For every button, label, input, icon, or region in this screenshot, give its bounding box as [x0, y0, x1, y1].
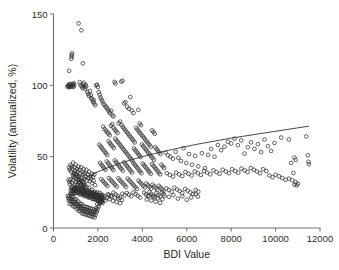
data-point — [239, 139, 243, 143]
data-point — [193, 154, 197, 158]
data-point — [149, 199, 153, 203]
data-point — [249, 141, 253, 145]
data-point — [219, 148, 223, 152]
data-point — [189, 196, 193, 200]
data-point — [243, 152, 247, 156]
data-point — [273, 141, 277, 145]
axis-labels-group: 020004000600080001000012000050100150BDI … — [6, 9, 333, 260]
data-point — [136, 108, 140, 112]
data-point — [80, 28, 84, 32]
data-point — [145, 198, 149, 202]
data-point — [306, 153, 310, 157]
data-point — [154, 200, 158, 204]
data-point — [171, 175, 175, 179]
data-point — [77, 22, 81, 26]
y-tick-label: 0 — [42, 223, 47, 234]
data-point — [259, 150, 263, 154]
data-point — [246, 170, 250, 174]
data-point — [174, 150, 178, 154]
data-point — [216, 143, 220, 147]
data-point — [287, 138, 291, 142]
data-point — [158, 201, 162, 205]
data-point — [206, 153, 210, 157]
data-point — [184, 161, 188, 165]
data-point — [115, 200, 119, 204]
data-point — [218, 172, 222, 176]
data-point — [236, 143, 240, 147]
data-point — [176, 197, 180, 201]
y-axis-title: Volatility (annualized, %) — [6, 64, 18, 178]
data-point — [292, 171, 296, 175]
data-point — [266, 144, 270, 148]
data-point — [196, 165, 200, 169]
data-point — [200, 151, 204, 155]
data-point — [190, 174, 194, 178]
x-axis-title: BDI Value — [164, 248, 211, 260]
data-point — [246, 145, 250, 149]
data-point — [81, 62, 85, 66]
data-point — [167, 195, 171, 199]
data-point — [229, 142, 233, 146]
data-point — [190, 163, 194, 167]
data-point — [93, 183, 97, 187]
data-point — [208, 173, 212, 177]
plot-canvas: 020004000600080001000012000050100150BDI … — [0, 0, 339, 270]
scatter-plot-figure: 020004000600080001000012000050100150BDI … — [0, 0, 339, 270]
x-tick-label: 8000 — [221, 233, 242, 244]
data-point — [236, 171, 240, 175]
data-markers-group — [65, 22, 310, 220]
data-point — [253, 147, 257, 151]
data-point — [279, 136, 283, 140]
x-tick-label: 0 — [51, 233, 56, 244]
data-point — [128, 95, 132, 99]
x-tick-label: 10000 — [262, 233, 288, 244]
data-point — [160, 197, 164, 201]
data-point — [179, 159, 183, 163]
data-point — [307, 162, 311, 166]
data-point — [289, 161, 293, 165]
x-tick-label: 12000 — [307, 233, 333, 244]
y-tick-label: 150 — [32, 9, 48, 20]
x-tick-label: 4000 — [132, 233, 153, 244]
data-point — [180, 174, 184, 178]
data-point — [258, 171, 262, 175]
data-point — [263, 138, 267, 142]
data-point — [227, 171, 231, 175]
data-point — [264, 169, 268, 173]
data-point — [209, 147, 213, 151]
x-tick-label: 2000 — [87, 233, 108, 244]
y-tick-label: 50 — [37, 151, 48, 162]
data-point — [304, 135, 308, 139]
data-point — [185, 198, 189, 202]
data-point — [176, 156, 180, 160]
data-point — [256, 142, 260, 146]
data-point — [269, 149, 273, 153]
data-point — [172, 193, 176, 197]
data-point — [223, 145, 227, 149]
y-tick-label: 100 — [32, 80, 48, 91]
x-tick-label: 6000 — [176, 233, 197, 244]
data-point — [196, 195, 200, 199]
data-point — [67, 69, 71, 73]
data-point — [213, 155, 217, 159]
data-point — [171, 157, 175, 161]
data-point — [95, 83, 99, 87]
data-point — [199, 173, 203, 177]
data-point — [187, 152, 191, 156]
